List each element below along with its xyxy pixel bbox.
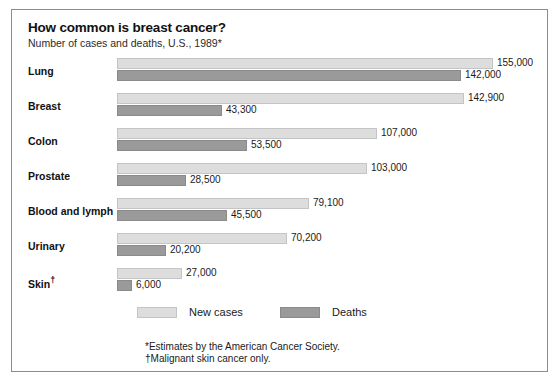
category-label: Lung xyxy=(28,65,54,77)
chart-row: Skin†27,0006,000 xyxy=(12,267,547,297)
legend-label-new-cases: New cases xyxy=(189,306,243,318)
bar-value-cases: 155,000 xyxy=(497,57,533,68)
bar-value-cases: 103,000 xyxy=(371,162,407,173)
category-label: Urinary xyxy=(28,240,65,252)
bar-value-cases: 142,900 xyxy=(468,92,504,103)
bar-value-deaths: 142,000 xyxy=(465,69,501,80)
bar-deaths xyxy=(117,210,227,221)
chart-row: Colon107,00053,500 xyxy=(12,127,547,157)
bar-value-cases: 70,200 xyxy=(291,232,322,243)
bar-value-deaths: 43,300 xyxy=(226,104,257,115)
legend-item-new-cases: New cases xyxy=(137,306,243,318)
category-label: Prostate xyxy=(28,170,70,182)
chart-footnotes: *Estimates by the American Cancer Societ… xyxy=(145,341,340,365)
bar-value-deaths: 28,500 xyxy=(190,174,221,185)
footnote-estimates: *Estimates by the American Cancer Societ… xyxy=(145,341,340,353)
bar-value-deaths: 53,500 xyxy=(251,139,282,150)
legend-swatch-new-cases xyxy=(137,307,177,318)
bar-deaths xyxy=(117,140,247,151)
bar-deaths xyxy=(117,105,222,116)
bar-deaths xyxy=(117,245,166,256)
category-label: Blood and lymph xyxy=(28,205,113,217)
category-label: Colon xyxy=(28,135,58,147)
bar-deaths xyxy=(117,280,132,291)
bar-value-deaths: 20,200 xyxy=(170,244,201,255)
bar-deaths xyxy=(117,70,461,81)
bar-value-deaths: 6,000 xyxy=(136,279,161,290)
bar-cases xyxy=(117,268,182,279)
bar-cases xyxy=(117,233,287,244)
chart-row: Lung155,000142,000 xyxy=(12,57,547,87)
chart-legend: New cases Deaths xyxy=(12,306,547,328)
chart-row: Breast142,90043,300 xyxy=(12,92,547,122)
dagger-marker: † xyxy=(50,275,55,285)
chart-row: Blood and lymph79,10045,500 xyxy=(12,197,547,227)
footnote-skin: †Malignant skin cancer only. xyxy=(145,353,340,365)
bar-deaths xyxy=(117,175,186,186)
legend-item-deaths: Deaths xyxy=(280,306,367,318)
bar-cases xyxy=(117,198,309,209)
category-label: Skin† xyxy=(28,275,55,290)
legend-label-deaths: Deaths xyxy=(332,306,367,318)
chart-frame: How common is breast cancer? Number of c… xyxy=(11,9,548,372)
bar-cases xyxy=(117,163,367,174)
legend-swatch-deaths xyxy=(280,307,320,318)
bar-cases xyxy=(117,93,464,104)
chart-row: Prostate103,00028,500 xyxy=(12,162,547,192)
bar-value-cases: 79,100 xyxy=(313,197,344,208)
category-label: Breast xyxy=(28,100,61,112)
chart-row: Urinary70,20020,200 xyxy=(12,232,547,262)
bar-cases xyxy=(117,128,377,139)
bar-value-cases: 107,000 xyxy=(381,127,417,138)
bar-value-deaths: 45,500 xyxy=(231,209,262,220)
bar-cases xyxy=(117,58,493,69)
bar-value-cases: 27,000 xyxy=(186,267,217,278)
